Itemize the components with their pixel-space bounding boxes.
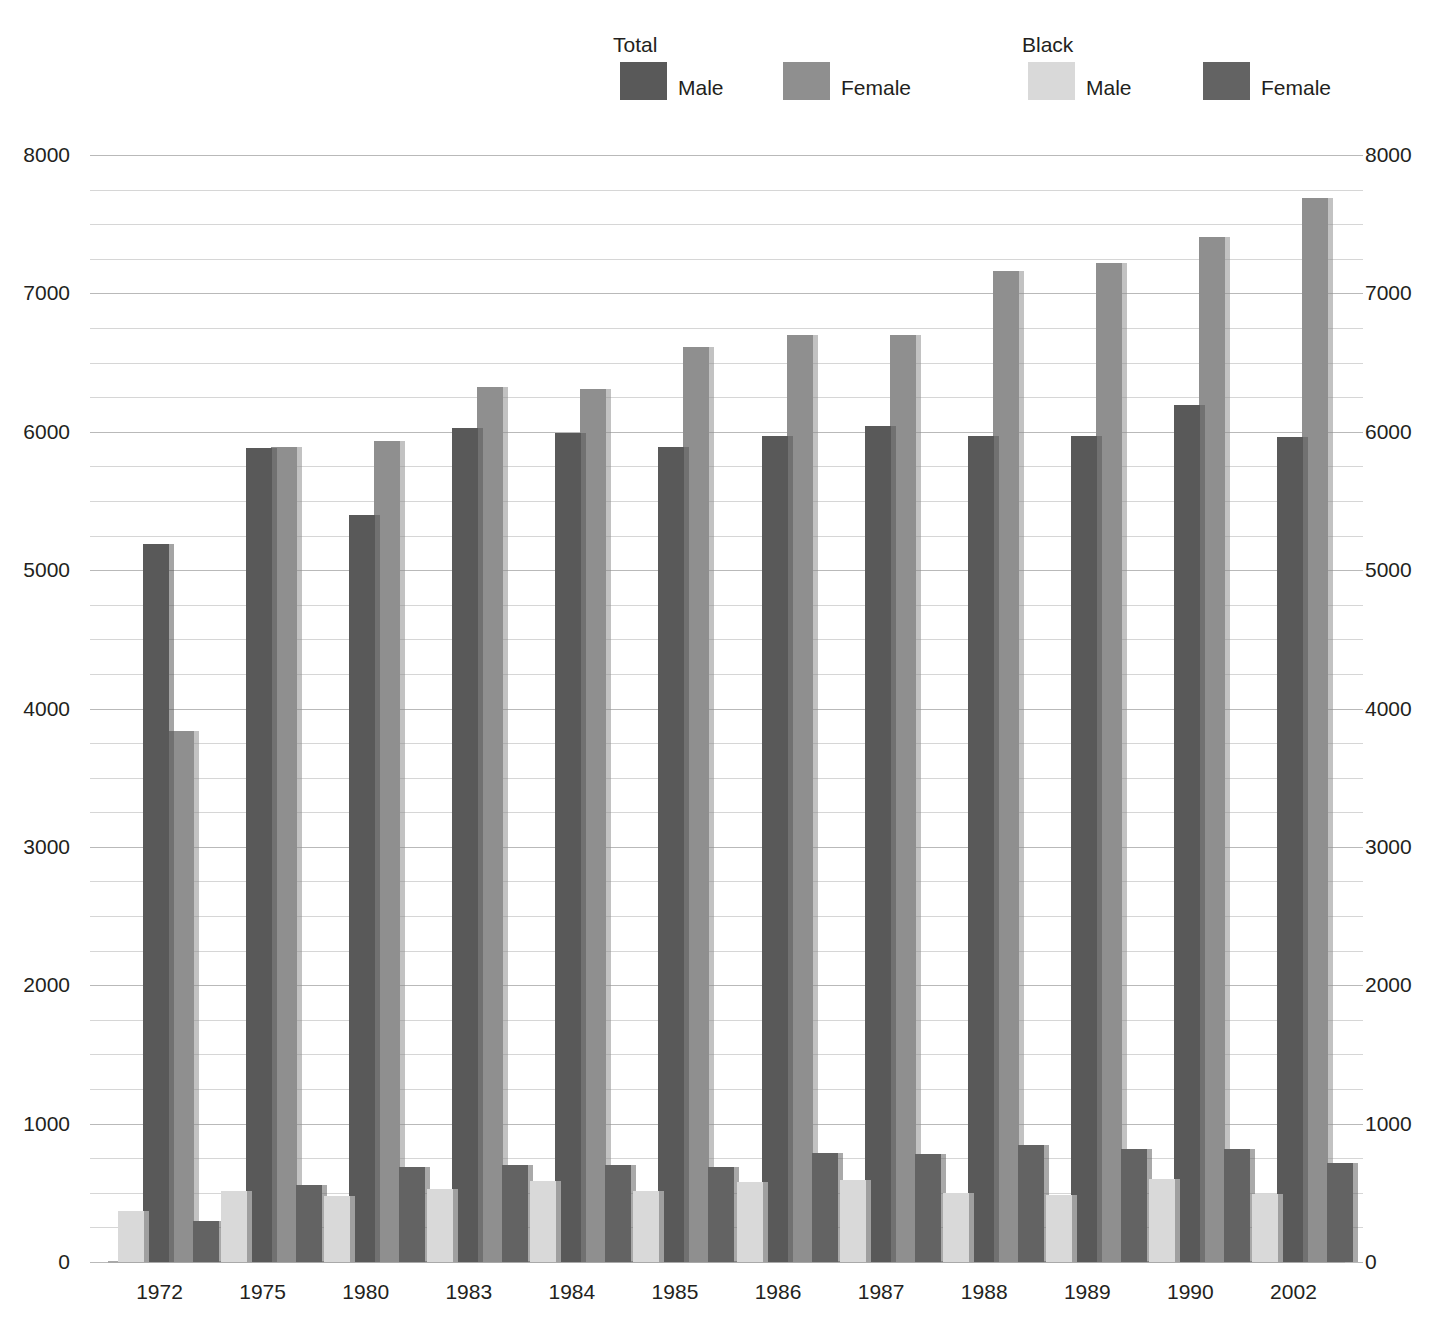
legend-swatch-black-female-icon: [1203, 62, 1250, 100]
tick-stub-right: [1345, 328, 1363, 329]
tick-stub-left: [90, 674, 108, 675]
bar-total_male[interactable]: [1277, 437, 1303, 1262]
tick-stub-left: [90, 1089, 108, 1090]
tick-stub-right: [1345, 674, 1363, 675]
tick-stub-left: [90, 224, 108, 225]
bar-black_male[interactable]: [633, 1191, 659, 1262]
bar-black_female[interactable]: [193, 1221, 219, 1263]
bar-black_male[interactable]: [324, 1196, 350, 1262]
bar-total_male[interactable]: [246, 448, 272, 1262]
y-tick-label-left: 4000: [23, 697, 70, 721]
bar-side-shading: [1097, 436, 1102, 1262]
tick-stub-right: [1345, 639, 1363, 640]
y-tick-label-left: 2000: [23, 973, 70, 997]
legend-entry-black-male[interactable]: Male: [1028, 62, 1132, 100]
tick-stub-left: [90, 259, 108, 260]
bar-group: [211, 155, 314, 1262]
tick-stub-right: [1345, 432, 1363, 433]
bar-total_male[interactable]: [555, 433, 581, 1262]
bar-black_female[interactable]: [1018, 1145, 1044, 1262]
bar-black_male[interactable]: [737, 1182, 763, 1262]
legend-entry-total-female[interactable]: Female: [783, 62, 911, 100]
bar-total_male[interactable]: [865, 426, 891, 1262]
bar-side-shading: [659, 1191, 664, 1262]
tick-stub-right: [1345, 466, 1363, 467]
bar-side-shading: [375, 515, 380, 1262]
bar-total_male[interactable]: [658, 447, 684, 1262]
tick-stub-left: [90, 190, 108, 191]
tick-stub-left: [90, 812, 108, 813]
bar-black_male[interactable]: [427, 1189, 453, 1262]
tick-stub-left: [90, 1158, 108, 1159]
tick-stub-right: [1345, 570, 1363, 571]
tick-stub-right: [1345, 605, 1363, 606]
bar-side-shading: [350, 1196, 355, 1262]
bar-total_male[interactable]: [762, 436, 788, 1262]
bar-black_female[interactable]: [399, 1167, 425, 1262]
bar-total_male[interactable]: [452, 428, 478, 1262]
x-tick-label: 1983: [445, 1280, 492, 1304]
tick-stub-right: [1345, 501, 1363, 502]
bar-side-shading: [788, 436, 793, 1262]
bar-black_female[interactable]: [812, 1153, 838, 1262]
bar-side-shading: [1122, 263, 1127, 1262]
x-tick-label: 1988: [961, 1280, 1008, 1304]
bar-side-shading: [478, 428, 483, 1262]
y-tick-label-right: 3000: [1365, 835, 1412, 859]
tick-stub-left: [90, 743, 108, 744]
bar-total_male[interactable]: [968, 436, 994, 1262]
y-tick-label-right: 4000: [1365, 697, 1412, 721]
bar-side-shading: [994, 436, 999, 1262]
bar-black_female[interactable]: [1327, 1163, 1353, 1262]
bar-black_female[interactable]: [1121, 1149, 1147, 1262]
tick-stub-left: [90, 397, 108, 398]
y-tick-label-right: 6000: [1365, 420, 1412, 444]
y-tick-label-left: 0: [58, 1250, 70, 1274]
legend-label: Male: [1086, 77, 1132, 100]
bar-total_male[interactable]: [143, 544, 169, 1262]
bar-side-shading: [709, 347, 714, 1262]
bar-black_male[interactable]: [840, 1180, 866, 1262]
legend-entry-black-female[interactable]: Female: [1203, 62, 1331, 100]
legend-label: Female: [1261, 77, 1331, 100]
tick-stub-right: [1345, 847, 1363, 848]
legend-group-title-total: Total: [613, 33, 657, 57]
bar-group: [830, 155, 933, 1262]
bar-black_male[interactable]: [221, 1191, 247, 1262]
bar-black_female[interactable]: [915, 1154, 941, 1262]
y-axis-right: 010002000300040005000600070008000: [1365, 155, 1445, 1262]
bar-total_male[interactable]: [349, 515, 375, 1262]
bar-total_male[interactable]: [1174, 405, 1200, 1262]
tick-stub-right: [1345, 259, 1363, 260]
bar-black_male[interactable]: [943, 1193, 969, 1262]
tick-stub-left: [90, 916, 108, 917]
tick-stub-left: [90, 155, 108, 156]
tick-stub-left: [90, 536, 108, 537]
bar-black_female[interactable]: [708, 1167, 734, 1262]
tick-stub-left: [90, 570, 108, 571]
y-tick-label-left: 1000: [23, 1112, 70, 1136]
bar-side-shading: [891, 426, 896, 1262]
bar-group: [1139, 155, 1242, 1262]
bar-black_female[interactable]: [605, 1165, 631, 1262]
bar-black_male[interactable]: [118, 1211, 144, 1262]
bar-black_male[interactable]: [1149, 1179, 1175, 1262]
legend-entry-total-male[interactable]: Male: [620, 62, 724, 100]
bar-black_female[interactable]: [296, 1185, 322, 1262]
tick-stub-right: [1345, 293, 1363, 294]
bar-total_male[interactable]: [1071, 436, 1097, 1262]
x-tick-label: 2002: [1270, 1280, 1317, 1304]
bar-side-shading: [1072, 1195, 1077, 1262]
tick-stub-left: [90, 1193, 108, 1194]
bar-group: [933, 155, 1036, 1262]
bar-black_male[interactable]: [1252, 1194, 1278, 1262]
bar-series-container: [108, 155, 1345, 1262]
bar-black_female[interactable]: [502, 1165, 528, 1262]
bar-black_male[interactable]: [530, 1181, 556, 1262]
bar-side-shading: [1353, 1163, 1358, 1262]
bar-group: [1242, 155, 1345, 1262]
bar-black_female[interactable]: [1224, 1149, 1250, 1262]
legend-swatch-total-male-icon: [620, 62, 667, 100]
bar-side-shading: [272, 448, 277, 1262]
bar-black_male[interactable]: [1046, 1195, 1072, 1262]
